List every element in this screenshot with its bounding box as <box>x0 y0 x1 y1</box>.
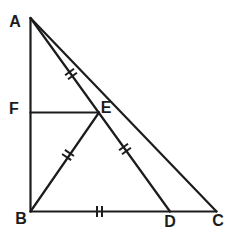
label-A: A <box>9 13 21 30</box>
figure-canvas: AFEBDC <box>0 0 238 238</box>
label-B: B <box>15 210 27 227</box>
label-E: E <box>101 99 112 116</box>
tick-AE-hash-2 <box>68 73 77 79</box>
label-D: D <box>164 213 176 230</box>
geometry-diagram: AFEBDC <box>0 0 238 238</box>
segment-AC <box>31 18 217 212</box>
tick-ED-hash-2 <box>122 148 131 154</box>
label-F: F <box>9 100 19 117</box>
label-C: C <box>212 212 224 229</box>
segment-BE <box>31 113 100 212</box>
tick-AE-hash-1 <box>65 69 74 75</box>
tick-ED-hash-1 <box>119 144 128 150</box>
